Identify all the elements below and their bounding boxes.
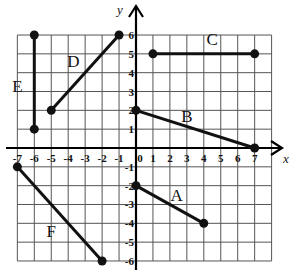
endpoint-dot <box>132 106 141 115</box>
y-tick-label: 6 <box>129 29 135 41</box>
segment-label: E <box>12 77 22 96</box>
x-tick-label: 2 <box>167 152 173 164</box>
y-tick-label: 1 <box>129 123 135 135</box>
y-tick-label: 4 <box>129 67 135 79</box>
endpoint-dot <box>30 31 39 40</box>
y-tick-label: 3 <box>129 86 135 98</box>
endpoint-dot <box>30 125 39 134</box>
x-tick-label: 6 <box>235 152 241 164</box>
x-tick-label: -3 <box>81 152 91 164</box>
segment-line <box>17 167 102 261</box>
endpoint-dot <box>148 49 157 58</box>
x-tick-label: 0 <box>137 152 143 164</box>
x-tick-label: -7 <box>13 152 23 164</box>
segment-e: E <box>12 31 39 134</box>
endpoint-dot <box>199 219 208 228</box>
y-tick-label: -5 <box>125 236 135 248</box>
x-tick-label: 7 <box>252 152 258 164</box>
x-tick-label: -6 <box>30 152 40 164</box>
segment-label: D <box>67 52 79 71</box>
endpoint-dot <box>250 144 259 153</box>
segment-label: C <box>207 30 218 49</box>
y-axis-label: y <box>115 2 123 17</box>
coordinate-grid-diagram: x y -7-6-5-4-3-2-101234567 654321-1-2-3-… <box>0 0 296 274</box>
segment-label: B <box>181 107 192 126</box>
segment-f: F <box>13 162 107 265</box>
y-tick-label: -1 <box>125 161 134 173</box>
y-tick-label: -4 <box>125 217 135 229</box>
x-tick-label: 1 <box>150 152 156 164</box>
x-tick-label: -2 <box>98 152 108 164</box>
x-tick-label: 5 <box>218 152 224 164</box>
y-tick-label: -6 <box>125 255 135 267</box>
endpoint-dot <box>132 181 141 190</box>
y-tick-label: 5 <box>129 48 135 60</box>
endpoint-dot <box>250 49 259 58</box>
endpoint-dot <box>47 106 56 115</box>
y-tick-label: -3 <box>125 198 135 210</box>
endpoint-dot <box>98 256 107 265</box>
x-tick-label: 3 <box>184 152 190 164</box>
x-axis-label: x <box>282 151 289 166</box>
segment-label: A <box>171 186 184 205</box>
segment-label: F <box>47 222 56 241</box>
x-tick-label: -5 <box>47 152 57 164</box>
x-tick-label: 4 <box>201 152 207 164</box>
x-tick-label: -4 <box>64 152 74 164</box>
endpoint-dot <box>115 31 124 40</box>
endpoint-dot <box>13 162 22 171</box>
x-tick-label: -1 <box>114 152 123 164</box>
